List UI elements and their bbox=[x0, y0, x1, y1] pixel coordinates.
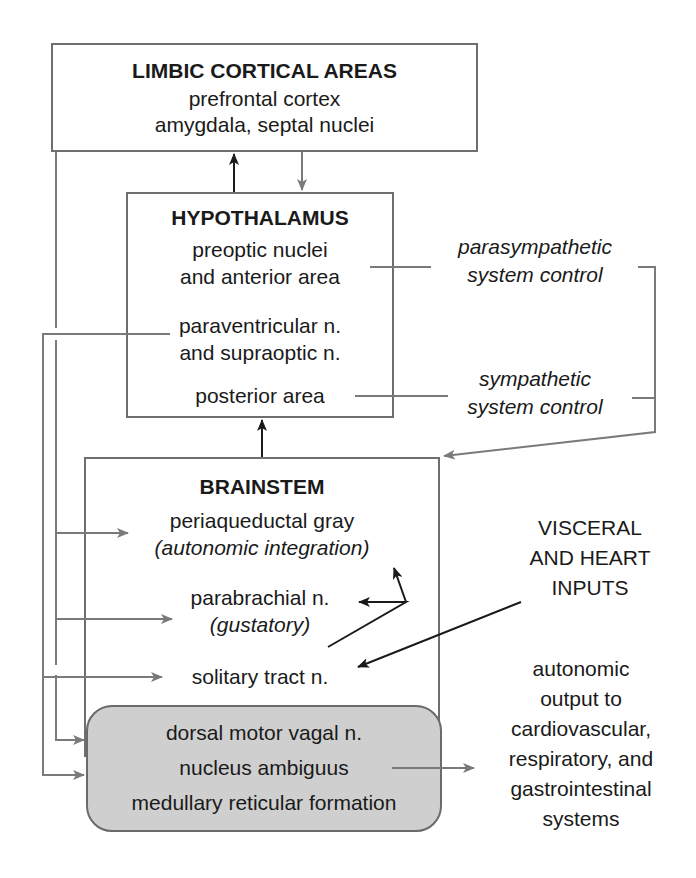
paraventricular-line-1: paraventricular n. bbox=[126, 313, 394, 338]
parabrachial-line-2: (gustatory) bbox=[160, 612, 360, 637]
output-line-2: output to bbox=[476, 686, 686, 711]
preoptic-line-1: preoptic nuclei bbox=[126, 237, 394, 262]
visceral-line-3: INPUTS bbox=[490, 575, 690, 600]
paraventricular-line-2: and supraoptic n. bbox=[126, 340, 394, 365]
visceral-line-2: AND HEART bbox=[490, 545, 690, 570]
motor-line-3: medullary reticular formation bbox=[86, 790, 442, 815]
parasympathetic-line-2: system control bbox=[430, 262, 640, 287]
solitary-tract: solitary tract n. bbox=[160, 664, 360, 689]
output-line-1: autonomic bbox=[476, 656, 686, 681]
preoptic-line-2: and anterior area bbox=[126, 264, 394, 289]
pag-line-2: (autonomic integration) bbox=[84, 535, 440, 560]
output-line-4: respiratory, and bbox=[476, 746, 686, 771]
pag-line-1: periaqueductal gray bbox=[84, 508, 440, 533]
parasympathetic-line-1: parasympathetic bbox=[430, 234, 640, 259]
motor-line-1: dorsal motor vagal n. bbox=[86, 720, 442, 745]
sympathetic-line-1: sympathetic bbox=[445, 366, 625, 391]
limbic-title: LIMBIC CORTICAL AREAS bbox=[51, 58, 478, 83]
parabrachial-line-1: parabrachial n. bbox=[160, 585, 360, 610]
output-line-3: cardiovascular, bbox=[476, 716, 686, 741]
visceral-line-1: VISCERAL bbox=[490, 515, 690, 540]
hypothalamus-title: HYPOTHALAMUS bbox=[126, 205, 394, 230]
output-line-6: systems bbox=[476, 806, 686, 831]
sympathetic-line-2: system control bbox=[430, 394, 640, 419]
posterior-area: posterior area bbox=[126, 383, 394, 408]
limbic-line-1: prefrontal cortex bbox=[51, 86, 478, 111]
motor-line-2: nucleus ambiguus bbox=[86, 755, 442, 780]
limbic-line-2: amygdala, septal nuclei bbox=[51, 112, 478, 137]
brainstem-title: BRAINSTEM bbox=[84, 474, 440, 499]
output-line-5: gastrointestinal bbox=[476, 776, 686, 801]
